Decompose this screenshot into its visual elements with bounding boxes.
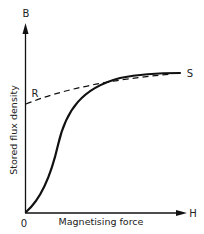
magnetisation-solid-curve [26,73,180,212]
demagnetisation-dashed-curve [26,74,172,104]
origin-label: 0 [21,218,27,229]
point-r-label: R [32,88,39,99]
y-axis-symbol: B [23,8,30,19]
y-axis-label: Stored flux density [8,85,19,175]
x-axis-symbol: H [189,208,197,219]
x-axis-label: Magnetising force [59,216,144,227]
bh-diagram: B H 0 Magnetising force Stored flux dens… [0,0,204,234]
y-axis-arrow-icon [23,23,29,34]
point-s-label: S [187,68,193,79]
x-axis-arrow-icon [176,210,187,216]
